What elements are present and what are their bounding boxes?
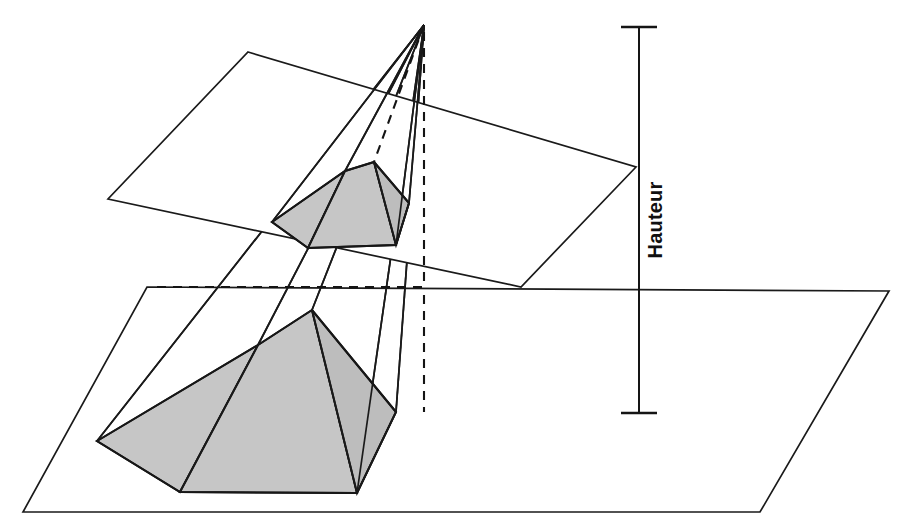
height-label: Hauteur (644, 182, 666, 259)
figure-canvas: Hauteur (0, 0, 902, 524)
geometry-figure-root: Hauteur (0, 0, 902, 524)
lower-plane (23, 287, 889, 512)
